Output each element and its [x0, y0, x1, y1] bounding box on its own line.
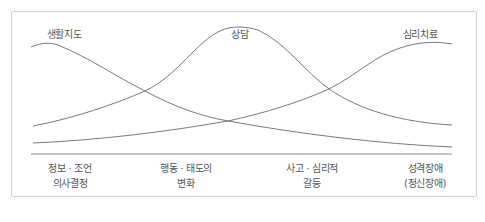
axis-label-personality-disorder: 성격장애 (정신장애): [380, 161, 470, 191]
therapy-label: 심리치료: [403, 26, 438, 41]
axis-label-line2: 변화: [141, 176, 231, 191]
axis-label-line2: (정신장애): [380, 176, 470, 191]
axis-label-line1: 정보 · 조언: [25, 161, 115, 176]
axis-label-line1: 행동 · 태도의: [141, 161, 231, 176]
axis-label-line1: 성격장애: [380, 161, 470, 176]
axis-label-information-advice: 정보 · 조언 의사결정: [25, 161, 115, 191]
axis-label-behavior-attitude: 행동 · 태도의 변화: [141, 161, 231, 191]
axis-label-line2: 의사결정: [25, 176, 115, 191]
guidance-label: 생활지도: [47, 26, 82, 41]
therapy-curve: [33, 42, 452, 143]
axis-label-line2: 갈등: [267, 176, 357, 191]
guidance-curve: [31, 43, 452, 147]
axis-label-line1: 사고 · 심리적: [267, 161, 357, 176]
axis-label-thought-conflict: 사고 · 심리적 갈등: [267, 161, 357, 191]
counseling-label: 상담: [231, 26, 248, 41]
counseling-curve: [33, 27, 452, 126]
